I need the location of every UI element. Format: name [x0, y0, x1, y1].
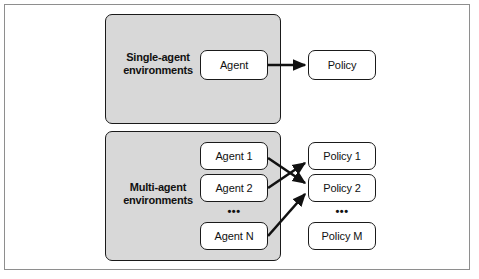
label-single-line-1: Single-agent — [110, 51, 206, 64]
ellipsis-policies: ••• — [308, 206, 376, 216]
label-single-agent-environments: Single-agent environments — [110, 51, 206, 76]
node-agent-1[interactable]: Agent 1 — [200, 142, 268, 170]
node-policy[interactable]: Policy — [308, 50, 376, 80]
label-single-line-2: environments — [110, 64, 206, 77]
label-multi-line-1: Multi-agent — [110, 181, 206, 194]
node-policy-1[interactable]: Policy 1 — [308, 142, 376, 170]
label-multi-line-2: environments — [110, 194, 206, 207]
ellipsis-agents: ••• — [200, 206, 268, 216]
node-policy-m[interactable]: Policy M — [308, 222, 376, 250]
node-agent-2[interactable]: Agent 2 — [200, 174, 268, 202]
diagram-canvas: Single-agent environments Multi-agent en… — [0, 0, 479, 279]
node-agent[interactable]: Agent — [200, 50, 268, 80]
node-agent-n[interactable]: Agent N — [200, 222, 268, 250]
node-policy-2[interactable]: Policy 2 — [308, 174, 376, 202]
label-multi-agent-environments: Multi-agent environments — [110, 181, 206, 206]
